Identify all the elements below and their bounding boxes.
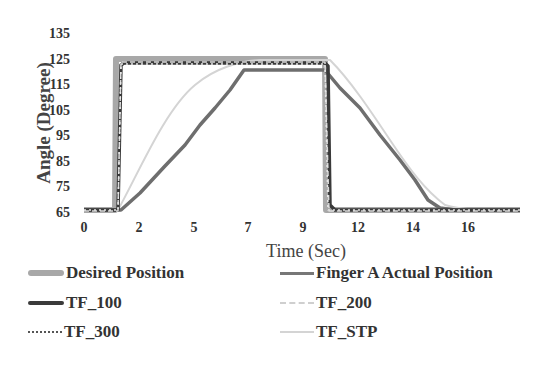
legend-swatch-light-solid <box>280 331 314 333</box>
legend: Desired Position Finger A Actual Positio… <box>0 263 547 373</box>
svg-text:12: 12 <box>351 220 365 235</box>
svg-text:135: 135 <box>49 26 70 41</box>
svg-text:14: 14 <box>406 220 420 235</box>
legend-item-tf-stp: TF_STP <box>280 322 377 342</box>
svg-text:115: 115 <box>50 77 70 92</box>
series-tf-100 <box>84 63 520 210</box>
legend-label: TF_STP <box>316 322 377 342</box>
line-chart: Angle (Degree) 65 75 85 95 105 115 125 1… <box>0 0 547 265</box>
legend-label: TF_100 <box>66 293 122 313</box>
svg-text:75: 75 <box>56 179 70 194</box>
svg-text:5: 5 <box>191 220 198 235</box>
series-finger-a-actual <box>84 70 520 210</box>
svg-text:2: 2 <box>136 220 143 235</box>
svg-text:125: 125 <box>49 52 70 67</box>
legend-item-finger-a: Finger A Actual Position <box>280 263 493 283</box>
svg-text:95: 95 <box>56 128 70 143</box>
svg-text:9: 9 <box>300 220 307 235</box>
svg-text:85: 85 <box>56 154 70 169</box>
series-tf-stp <box>84 60 520 210</box>
x-axis-ticks: 0 2 5 7 9 12 14 16 <box>81 220 476 235</box>
x-axis-label: Time (Sec) <box>266 241 346 262</box>
series-tf-200 <box>84 62 520 211</box>
legend-item-tf-200: TF_200 <box>280 293 372 313</box>
svg-text:65: 65 <box>56 205 70 220</box>
legend-label: TF_200 <box>316 293 372 313</box>
legend-label: Desired Position <box>66 263 184 283</box>
legend-swatch-dashed <box>280 302 314 304</box>
legend-item-desired-position: Desired Position <box>28 263 184 283</box>
series-desired-position <box>84 59 520 210</box>
legend-label: TF_300 <box>64 322 120 342</box>
plot-area <box>84 59 520 211</box>
svg-text:7: 7 <box>245 220 252 235</box>
series-tf-300 <box>84 64 520 210</box>
legend-item-tf-100: TF_100 <box>28 293 122 313</box>
svg-text:0: 0 <box>81 220 88 235</box>
svg-text:16: 16 <box>461 220 475 235</box>
legend-swatch-thick-gray <box>28 270 64 276</box>
legend-swatch-thick-dark <box>28 301 64 305</box>
legend-item-tf-300: TF_300 <box>28 322 120 342</box>
legend-label: Finger A Actual Position <box>316 263 493 283</box>
legend-swatch-solid-gray <box>280 272 314 275</box>
legend-swatch-dotted <box>28 331 62 333</box>
svg-text:105: 105 <box>49 103 70 118</box>
